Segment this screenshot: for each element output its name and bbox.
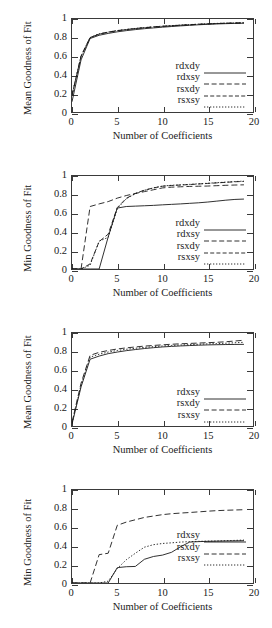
y-axis-tick [247, 114, 253, 115]
y-axis-tick [72, 114, 78, 115]
x-axis-tick-label: 0 [56, 274, 86, 285]
x-axis-tick-label: 20 [239, 274, 269, 285]
legend-item: rsxdy [142, 397, 246, 409]
x-axis-title: Number of Coefficients [71, 601, 254, 612]
legend-label: rsxdy [140, 240, 200, 252]
y-axis-tick-label: 0.4 [37, 70, 67, 81]
x-axis-tick-label: 0 [56, 431, 86, 442]
legend-label: rdxsy [140, 529, 200, 541]
legend-item: rdxsy [142, 386, 246, 398]
x-axis-tick [255, 333, 256, 338]
x-axis-title: Number of Coefficients [71, 444, 254, 455]
y-axis-title: Min Goodness of Fit [22, 499, 33, 586]
legend-label: rdxsy [140, 386, 200, 398]
x-axis-tick-label: 10 [148, 117, 178, 128]
legend-item: rsxsy [142, 94, 246, 106]
y-axis-tick-label: 0.8 [37, 346, 67, 357]
legend-label: rdxdy [140, 60, 200, 72]
y-axis-tick-label: 0.6 [37, 51, 67, 62]
x-axis-tick-label: 0 [56, 117, 86, 128]
y-axis-tick-label: 0.2 [37, 246, 67, 257]
y-axis-tick-label: 0.4 [37, 227, 67, 238]
legend: rdxsyrsxdyrsxsy [142, 529, 246, 564]
x-axis-tick-label: 20 [239, 431, 269, 442]
x-axis-tick [255, 490, 256, 495]
legend-key-swatch [204, 76, 246, 77]
x-axis-tick [255, 578, 256, 583]
x-axis-tick-label: 10 [148, 431, 178, 442]
legend-key-swatch [204, 557, 246, 558]
legend-label: rdxsy [140, 71, 200, 83]
x-axis-title: Number of Coefficients [71, 130, 254, 141]
legend-label: rdxdy [140, 217, 200, 229]
y-axis-tick [247, 428, 253, 429]
y-axis-tick-label: 1 [37, 170, 67, 181]
y-axis-tick-label: 1 [37, 327, 67, 338]
legend-item: rsxsy [142, 251, 246, 263]
legend-item: rsxdy [142, 83, 246, 95]
x-axis-tick-label: 15 [193, 117, 223, 128]
legend-key-swatch [204, 88, 246, 89]
legend-key-swatch [204, 391, 246, 392]
legend-label: rsxsy [140, 94, 200, 106]
legend-item: rdxdy [142, 60, 246, 72]
legend-key-swatch [204, 546, 246, 547]
y-axis-tick-label: 0.2 [37, 560, 67, 571]
x-axis-tick-label: 20 [239, 117, 269, 128]
legend-item: rsxdy [142, 541, 246, 553]
legend-item: rsxsy [142, 552, 246, 564]
legend-label: rsxdy [140, 83, 200, 95]
legend-item: rdxsy [142, 228, 246, 240]
legend-label: rsxdy [140, 397, 200, 409]
y-axis-title: Min Goodness of Fit [22, 185, 33, 272]
y-axis-tick-label: 0.8 [37, 189, 67, 200]
legend: rdxdyrdxsyrsxdyrsxsy [142, 60, 246, 106]
x-axis-tick-label: 10 [148, 274, 178, 285]
legend-label: rsxsy [140, 251, 200, 263]
legend-key-swatch [204, 65, 246, 66]
y-axis-tick [72, 271, 78, 272]
legend-item: rsxdy [142, 240, 246, 252]
y-axis-tick-label: 0.2 [37, 89, 67, 100]
legend-key-swatch [204, 534, 246, 535]
legend-key-swatch [204, 245, 246, 246]
legend-label: rsxsy [140, 552, 200, 564]
x-axis-tick-label: 15 [193, 431, 223, 442]
legend-label: rsxdy [140, 541, 200, 553]
x-axis-tick [255, 421, 256, 426]
y-axis-title: Mean Goodness of Fit [22, 335, 33, 429]
legend-label: rsxsy [140, 409, 200, 421]
x-axis-tick [255, 176, 256, 181]
y-axis-tick-label: 1 [37, 13, 67, 24]
legend-item: rdxsy [142, 529, 246, 541]
legend-key-swatch [204, 402, 246, 403]
y-axis-tick-label: 0.4 [37, 541, 67, 552]
y-axis-tick-label: 0.2 [37, 403, 67, 414]
x-axis-tick [255, 107, 256, 112]
y-axis-tick-label: 0.6 [37, 208, 67, 219]
x-axis-tick-label: 5 [102, 274, 132, 285]
legend-key-swatch [204, 414, 246, 415]
chart-panel-4: 00.20.40.60.8105101520Number of Coeffici… [0, 471, 272, 628]
y-axis-tick-label: 0.6 [37, 522, 67, 533]
legend: rdxdyrdxsyrsxdyrsxsy [142, 217, 246, 263]
y-axis-tick [247, 271, 253, 272]
legend-key-swatch [204, 222, 246, 223]
x-axis-tick-label: 20 [239, 588, 269, 599]
legend-key-swatch [204, 256, 246, 257]
legend-item: rsxsy [142, 409, 246, 421]
x-axis-tick-label: 5 [102, 431, 132, 442]
legend: rdxsyrsxdyrsxsy [142, 386, 246, 421]
x-axis-tick-label: 5 [102, 117, 132, 128]
x-axis-tick [255, 19, 256, 24]
x-axis-tick-label: 10 [148, 588, 178, 599]
chart-panel-3: 00.20.40.60.8105101520Number of Coeffici… [0, 314, 272, 471]
y-axis-tick-label: 0.4 [37, 384, 67, 395]
chart-panel-1: 00.20.40.60.8105101520Number of Coeffici… [0, 0, 272, 157]
x-axis-title: Number of Coefficients [71, 287, 254, 298]
x-axis-tick-label: 15 [193, 588, 223, 599]
y-axis-tick [72, 585, 78, 586]
y-axis-tick-label: 0.8 [37, 32, 67, 43]
x-axis-tick-label: 5 [102, 588, 132, 599]
y-axis-tick [247, 585, 253, 586]
